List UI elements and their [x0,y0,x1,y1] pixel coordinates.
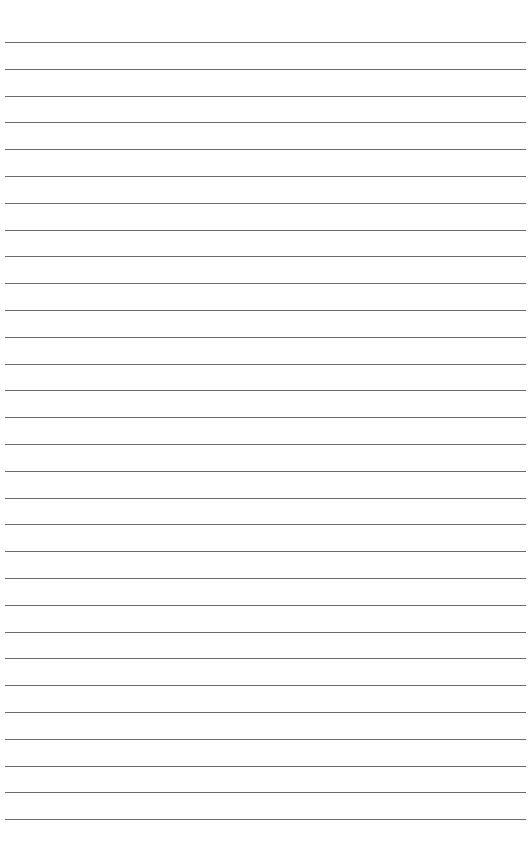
ruled-line [5,69,526,70]
ruled-line [5,310,526,311]
ruled-line [5,203,526,204]
ruled-line [5,42,526,43]
ruled-line [5,122,526,123]
ruled-line [5,685,526,686]
ruled-line [5,96,526,97]
ruled-line [5,551,526,552]
ruled-line [5,337,526,338]
lined-paper-page [0,0,532,866]
ruled-line [5,766,526,767]
ruled-line [5,632,526,633]
ruled-line [5,498,526,499]
ruled-line [5,819,526,820]
ruled-line [5,792,526,793]
ruled-line [5,176,526,177]
ruled-line [5,364,526,365]
ruled-line [5,149,526,150]
ruled-line [5,471,526,472]
ruled-line [5,578,526,579]
ruled-line [5,739,526,740]
ruled-line [5,524,526,525]
ruled-line [5,256,526,257]
ruled-line [5,390,526,391]
ruled-line [5,444,526,445]
ruled-line [5,658,526,659]
ruled-line [5,230,526,231]
ruled-line [5,605,526,606]
ruled-line [5,712,526,713]
ruled-line [5,283,526,284]
ruled-line [5,417,526,418]
